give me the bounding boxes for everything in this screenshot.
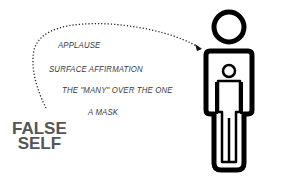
arrowhead-icon: [195, 44, 202, 51]
item-a-mask: A MASK: [88, 106, 118, 117]
outer-head-icon: [214, 12, 244, 42]
item-applause: APPLAUSE: [58, 39, 100, 50]
inner-head-icon: [223, 65, 235, 77]
label-line-2: SELF: [12, 136, 67, 151]
false-self-diagram: APPLAUSE SURFACE AFFIRMATION THE "MANY" …: [0, 0, 282, 179]
item-many-over-one: THE "MANY" OVER THE ONE: [62, 84, 173, 95]
item-surface-affirmation: SURFACE AFFIRMATION: [49, 63, 143, 74]
false-self-label: FALSE SELF: [12, 121, 67, 151]
